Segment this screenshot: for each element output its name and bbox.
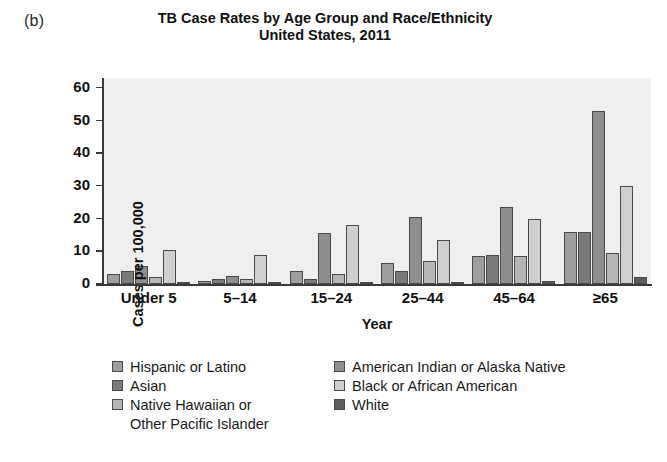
- bar: [254, 255, 267, 284]
- bar: [564, 232, 577, 284]
- y-tick-60: [96, 87, 104, 89]
- y-tick-label-40: 40: [46, 143, 90, 160]
- x-axis-line: [96, 284, 652, 286]
- legend-item[interactable]: American Indian or Alaska Native: [334, 358, 582, 377]
- legend-item-label: Native Hawaiian or: [130, 396, 252, 415]
- x-tick-label: ≥65: [555, 289, 655, 306]
- bar-group: [468, 78, 559, 284]
- panel-label: (b): [24, 12, 44, 30]
- bar: [620, 186, 633, 284]
- legend-swatch: [334, 380, 345, 391]
- legend-column-right: American Indian or Alaska NativeBlack or…: [334, 358, 582, 434]
- legend-item-label: White: [352, 396, 389, 415]
- chart-title-line1: TB Case Rates by Age Group and Race/Ethn…: [158, 10, 493, 26]
- bar: [528, 219, 541, 284]
- x-tick-label: 45–64: [464, 289, 564, 306]
- bar: [514, 256, 527, 284]
- x-axis-title: Year: [103, 316, 651, 332]
- y-tick-10: [96, 250, 104, 252]
- legend-item-label: Hispanic or Latino: [130, 358, 246, 377]
- bar: [163, 250, 176, 284]
- legend-item[interactable]: Hispanic or Latino: [112, 358, 334, 377]
- bar: [226, 276, 239, 284]
- legend-item-label: Asian: [130, 377, 166, 396]
- legend-item[interactable]: Black or African American: [334, 377, 582, 396]
- legend-swatch: [334, 361, 345, 372]
- bar: [318, 233, 331, 284]
- bar: [107, 274, 120, 284]
- bar: [500, 207, 513, 284]
- bar: [290, 271, 303, 284]
- bar: [409, 217, 422, 284]
- bar-group: [377, 78, 468, 284]
- bar-group: [103, 78, 194, 284]
- bar: [486, 255, 499, 284]
- chart-legend: Hispanic or LatinoAsianNative Hawaiian o…: [112, 358, 582, 434]
- y-axis-line: [102, 78, 104, 285]
- bar: [395, 271, 408, 284]
- x-tick-label: Under 5: [99, 289, 199, 306]
- bar-group: [194, 78, 285, 284]
- legend-item[interactable]: Asian: [112, 377, 334, 396]
- y-tick-40: [96, 152, 104, 154]
- y-tick-label-10: 10: [46, 241, 90, 258]
- legend-item-label: American Indian or Alaska Native: [352, 358, 566, 377]
- y-tick-label-0: 0: [46, 274, 90, 291]
- bar: [437, 240, 450, 284]
- y-tick-30: [96, 185, 104, 187]
- bar: [332, 274, 345, 284]
- legend-swatch: [334, 399, 345, 410]
- y-tick-0: [96, 283, 104, 285]
- bar: [592, 111, 605, 284]
- y-tick-label-60: 60: [46, 78, 90, 95]
- bar: [423, 261, 436, 284]
- bar: [381, 263, 394, 284]
- legend-item[interactable]: Native Hawaiian or: [112, 396, 334, 415]
- bar-group: [560, 78, 651, 284]
- x-tick-label: 5–14: [190, 289, 290, 306]
- bar: [606, 253, 619, 284]
- bar: [578, 232, 591, 284]
- chart-title-line2: United States, 2011: [90, 27, 560, 44]
- plot-frame: Cases per 100,000: [103, 78, 651, 284]
- legend-swatch: [112, 361, 123, 372]
- y-tick-label-20: 20: [46, 209, 90, 226]
- y-tick-label-30: 30: [46, 176, 90, 193]
- x-tick-label: 15–24: [281, 289, 381, 306]
- bar: [346, 225, 359, 284]
- legend-item[interactable]: White: [334, 396, 582, 415]
- bar-group: [286, 78, 377, 284]
- y-tick-label-50: 50: [46, 111, 90, 128]
- x-tick-label: 25–44: [373, 289, 473, 306]
- bar: [472, 256, 485, 284]
- legend-item-label-continued: Other Pacific Islander: [112, 415, 334, 434]
- y-tick-20: [96, 218, 104, 220]
- chart-title: TB Case Rates by Age Group and Race/Ethn…: [90, 10, 560, 44]
- legend-swatch: [112, 399, 123, 410]
- legend-column-left: Hispanic or LatinoAsianNative Hawaiian o…: [112, 358, 334, 434]
- legend-swatch: [112, 380, 123, 391]
- legend-item-label: Black or African American: [352, 377, 517, 396]
- y-axis-title: Cases per 100,000: [130, 164, 146, 364]
- y-tick-50: [96, 120, 104, 122]
